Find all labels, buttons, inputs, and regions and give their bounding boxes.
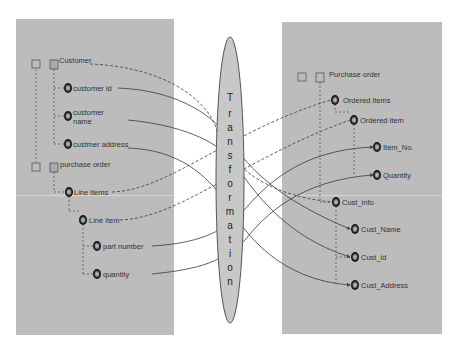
node-customer-id: customer id <box>73 84 112 93</box>
node-cust-info: Cust_info <box>342 198 374 207</box>
node-purchase-order: purchase order <box>60 160 110 169</box>
node-part-number: part number <box>103 242 143 251</box>
node-line-items: Line items <box>74 188 108 197</box>
node-customer-address: custmer address <box>73 140 128 149</box>
node-target-quantity: Quantity <box>383 171 411 180</box>
node-cust-id: Cust_id <box>361 253 386 262</box>
node-ordered-items: Ordered items <box>343 96 391 105</box>
node-ordered-item: Ordered item <box>360 116 404 125</box>
node-cust-name: Cust_Name <box>361 225 401 234</box>
node-target-purchase-order: Purchase order <box>329 70 380 79</box>
node-quantity: quantity <box>103 270 129 279</box>
node-customer: Customer <box>59 56 92 65</box>
node-customer-name: customer name <box>73 108 104 126</box>
node-item-no: Item_No. <box>383 143 413 152</box>
node-line-item: Line item <box>89 216 119 225</box>
node-cust-address: Cust_Address <box>361 281 408 290</box>
